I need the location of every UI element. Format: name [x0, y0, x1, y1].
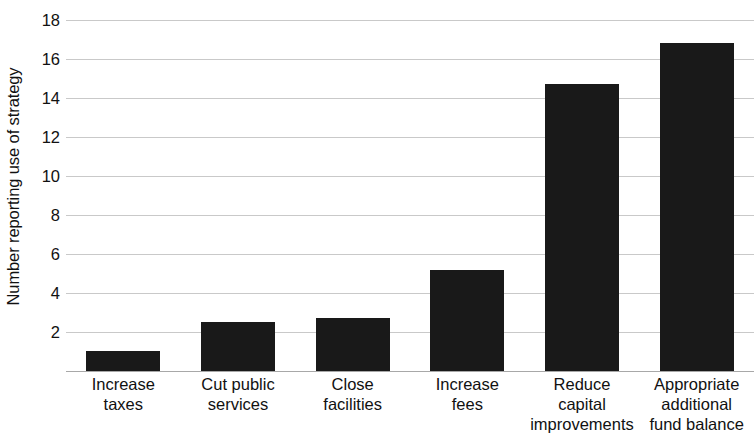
gridline — [66, 176, 754, 177]
x-tick-label-line: services — [181, 394, 296, 414]
y-tick-label: 6 — [51, 246, 60, 263]
gridline — [66, 254, 754, 255]
x-tick-label: Reducecapitalimprovements — [525, 374, 640, 434]
gridline — [66, 332, 754, 333]
x-tick-label-line: fees — [410, 394, 525, 414]
bar — [430, 270, 504, 371]
y-axis-tick-labels: 24681012141618 — [26, 0, 64, 372]
x-tick-label-line: Appropriate — [639, 374, 754, 394]
x-tick-label: Increasefees — [410, 374, 525, 414]
x-tick-label-line: additional — [639, 394, 754, 414]
x-axis-tick-labels: IncreasetaxesCut publicservicesClosefaci… — [66, 374, 754, 442]
y-tick-label: 18 — [42, 12, 60, 29]
bar-chart: Number reporting use of strategy 2468101… — [0, 0, 754, 442]
gridline — [66, 20, 754, 21]
gridline — [66, 215, 754, 216]
x-tick-label-line: Increase — [410, 374, 525, 394]
y-tick-label: 10 — [42, 168, 60, 185]
y-tick-label: 16 — [42, 51, 60, 68]
bar — [86, 351, 160, 371]
x-tick-label: Closefacilities — [295, 374, 410, 414]
gridline — [66, 59, 754, 60]
x-tick-label-line: Increase — [66, 374, 181, 394]
x-tick-label: Increasetaxes — [66, 374, 181, 414]
y-tick-label: 2 — [51, 324, 60, 341]
y-tick-label: 12 — [42, 129, 60, 146]
plot-area — [66, 0, 754, 372]
bar — [316, 318, 390, 371]
x-axis-line — [66, 371, 754, 372]
y-tick-label: 4 — [51, 285, 60, 302]
gridline — [66, 98, 754, 99]
x-tick-label-line: fund balance — [639, 414, 754, 434]
gridline — [66, 293, 754, 294]
y-tick-label: 14 — [42, 90, 60, 107]
bar — [660, 43, 734, 371]
x-tick-label: Cut publicservices — [181, 374, 296, 414]
y-axis-title: Number reporting use of strategy — [0, 0, 26, 372]
x-tick-label-line: taxes — [66, 394, 181, 414]
x-tick-label-line: Cut public — [181, 374, 296, 394]
x-tick-label-line: capital — [525, 394, 640, 414]
x-tick-label-line: Reduce — [525, 374, 640, 394]
bar — [201, 322, 275, 371]
bar — [545, 84, 619, 371]
y-axis-title-text: Number reporting use of strategy — [4, 67, 23, 305]
x-tick-label-line: facilities — [295, 394, 410, 414]
x-tick-label-line: improvements — [525, 414, 640, 434]
y-tick-label: 8 — [51, 207, 60, 224]
x-tick-label: Appropriateadditionalfund balance — [639, 374, 754, 434]
x-tick-label-line: Close — [295, 374, 410, 394]
gridline — [66, 137, 754, 138]
